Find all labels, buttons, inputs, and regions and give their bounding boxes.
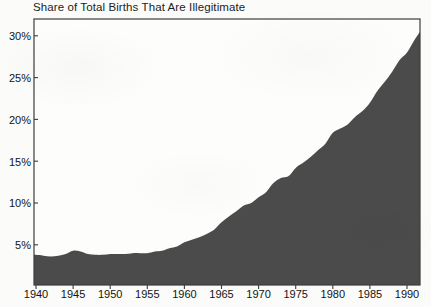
x-tick-label-1965: 1965 — [209, 288, 233, 300]
x-tick-label-1940: 1940 — [24, 288, 48, 300]
x-tick-label-1955: 1955 — [135, 288, 159, 300]
x-tick-label-1990: 1990 — [395, 288, 419, 300]
x-tick-label-1980: 1980 — [321, 288, 345, 300]
chart-figure: Share of Total Births That Are Illegitim… — [0, 0, 431, 307]
x-tick-label-1970: 1970 — [246, 288, 270, 300]
x-tick-label-1975: 1975 — [283, 288, 307, 300]
x-tick-label-1945: 1945 — [61, 288, 85, 300]
x-tick-label-1985: 1985 — [358, 288, 382, 300]
plot-area — [0, 0, 431, 307]
x-tick-label-1960: 1960 — [172, 288, 196, 300]
x-tick-label-1950: 1950 — [98, 288, 122, 300]
x-axis-tick-labels: 1940 1945 1950 1955 1960 1965 1970 1975 … — [0, 288, 431, 307]
